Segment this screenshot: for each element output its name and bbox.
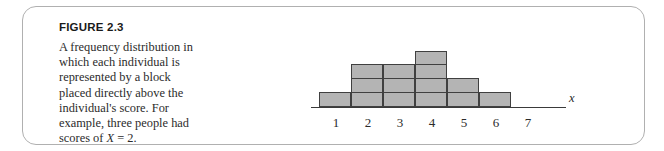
x-axis-label: x [569, 91, 575, 106]
tick-label-2: 2 [352, 115, 384, 131]
x-axis-tick-labels: 1234567 [320, 115, 544, 131]
block-column-6 [480, 93, 512, 107]
block [415, 92, 447, 107]
figure-caption-block: FIGURE 2.3 A frequency distribution in w… [59, 21, 219, 146]
tick-label-5: 5 [448, 115, 480, 131]
block [383, 92, 415, 107]
figure-caption-text: A frequency distribution in which each i… [59, 40, 199, 146]
tick-label-6: 6 [480, 115, 512, 131]
block [351, 92, 383, 107]
tick-label-3: 3 [384, 115, 416, 131]
figure-number-label: FIGURE 2.3 [59, 21, 219, 33]
tick-label-1: 1 [320, 115, 352, 131]
block [479, 92, 511, 107]
block-column-2 [352, 66, 384, 107]
tick-label-4: 4 [416, 115, 448, 131]
caption-math-variable: X [106, 131, 114, 145]
caption-sentence-main: A frequency distribution in which each i… [59, 40, 193, 145]
caption-sentence-tail: = 2. [114, 131, 136, 145]
block [447, 92, 479, 107]
tick-label-7: 7 [512, 115, 544, 131]
block-column-4 [416, 52, 448, 106]
block-column-5 [448, 79, 480, 106]
frequency-distribution-chart: x 1234567 [311, 19, 611, 137]
block-column-3 [384, 66, 416, 107]
figure-frame: FIGURE 2.3 A frequency distribution in w… [22, 6, 645, 145]
chart-plot-area: x 1234567 [311, 19, 611, 137]
block-column-1 [320, 93, 352, 107]
block-columns-group [320, 52, 544, 106]
x-axis-line [311, 107, 566, 109]
block [319, 92, 351, 107]
